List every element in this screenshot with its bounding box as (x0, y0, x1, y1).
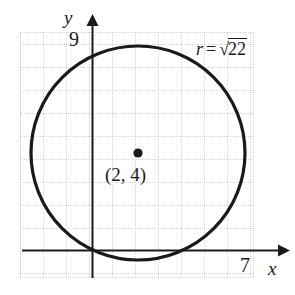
x-axis-tick-label: 7 (240, 255, 250, 275)
y-axis-arrow-icon (87, 14, 99, 26)
y-axis-label: y (64, 8, 72, 27)
figure-drawing-layer (0, 0, 295, 295)
center-point-marker (133, 148, 142, 157)
x-axis-arrow-icon (278, 245, 290, 257)
y-axis-tick-label: 9 (69, 29, 79, 49)
radius-label-variable: r (196, 39, 203, 59)
x-axis-label: x (268, 259, 276, 278)
radicand-value: 22 (228, 38, 247, 59)
radical-expression: √22 (219, 40, 247, 58)
circle-graph-figure: y 9 7 x (2, 4) r=√22 (0, 0, 295, 295)
center-point-label: (2, 4) (105, 165, 146, 184)
radius-label-equals: = (206, 39, 216, 59)
radius-label: r=√22 (196, 40, 247, 58)
